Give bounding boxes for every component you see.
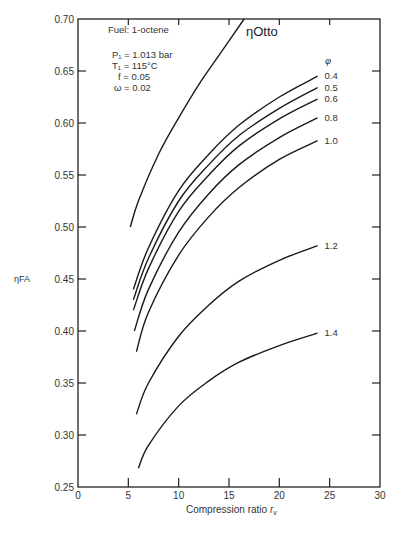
- y-tick-label: 0.70: [55, 14, 75, 25]
- phi-header: φ: [325, 55, 331, 66]
- y-axis-label: ηFA: [14, 274, 30, 284]
- data-curves: [130, 19, 317, 468]
- curve-label: 0.5: [325, 82, 338, 93]
- x-axis-label: Compression ratio rv: [186, 504, 277, 516]
- curve-05: [133, 88, 317, 300]
- y-tick-label: 0.55: [55, 170, 75, 181]
- otto-label: ηOtto: [246, 24, 278, 39]
- condition-omega: ω = 0.02: [114, 82, 151, 93]
- y-tick-label: 0.50: [55, 222, 75, 233]
- fuel-annotation: Fuel: 1-octene: [108, 24, 169, 35]
- y-tick-label: 0.25: [55, 482, 75, 493]
- curve-label: 1.0: [325, 135, 338, 146]
- y-tick-label: 0.65: [55, 66, 75, 77]
- curve-10: [136, 141, 317, 352]
- x-tick-label: 5: [126, 490, 132, 501]
- chart: 0510152025300.250.300.350.400.450.500.55…: [0, 0, 396, 534]
- condition-temperature: T₁ = 115°C: [112, 60, 158, 71]
- curve-label: 1.4: [325, 327, 338, 338]
- condition-pressure: P₁ = 1.013 bar: [112, 49, 173, 60]
- curve-label: 0.8: [325, 112, 338, 123]
- curve-12: [136, 246, 317, 414]
- x-tick-label: 15: [223, 490, 235, 501]
- condition-f: f = 0.05: [118, 71, 150, 82]
- x-tick-label: 25: [324, 490, 336, 501]
- y-tick-label: 0.40: [55, 326, 75, 337]
- y-tick-label: 0.60: [55, 118, 75, 129]
- x-tick-label: 20: [274, 490, 286, 501]
- curve-08: [134, 118, 317, 331]
- x-tick-label: 0: [75, 490, 81, 501]
- curve-04: [133, 76, 317, 289]
- curve-labels: 0.40.50.60.81.01.21.4: [325, 70, 338, 338]
- curve-06: [133, 99, 317, 310]
- y-tick-label: 0.35: [55, 378, 75, 389]
- curve-14: [138, 333, 317, 468]
- x-tick-label: 30: [374, 490, 386, 501]
- y-tick-label: 0.45: [55, 274, 75, 285]
- curve-label: 0.4: [325, 70, 338, 81]
- curve-label: 1.2: [325, 240, 338, 251]
- x-tick-label: 10: [173, 490, 185, 501]
- conditions-annotation: P₁ = 1.013 bar T₁ = 115°C f = 0.05 ω = 0…: [112, 49, 173, 93]
- y-tick-label: 0.30: [55, 430, 75, 441]
- curve-label: 0.6: [325, 93, 338, 104]
